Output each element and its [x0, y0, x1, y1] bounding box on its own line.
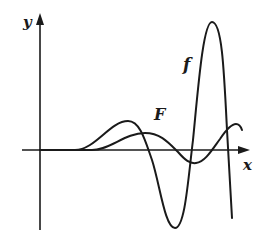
- curve-f-label: f: [182, 54, 193, 74]
- x-axis-arrow-icon: [238, 146, 250, 154]
- function-graph: y x f F: [0, 0, 263, 245]
- y-axis-arrow-icon: [36, 13, 44, 25]
- y-axis-label: y: [22, 13, 33, 31]
- curve-F-label: F: [153, 105, 167, 124]
- x-axis-label: x: [242, 156, 253, 174]
- curve-f: [40, 22, 232, 228]
- y-axis: [36, 13, 44, 230]
